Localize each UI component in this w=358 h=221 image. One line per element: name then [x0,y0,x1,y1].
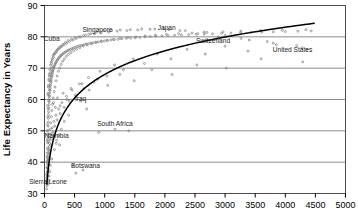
data-point [48,75,50,77]
data-point [106,75,108,77]
data-point [79,47,81,49]
data-point [310,30,312,32]
data-point [88,33,90,35]
data-point [151,69,153,71]
data-point [55,114,57,116]
data-point [73,50,75,52]
data-point [186,48,188,50]
x-tick-label: 500 [67,200,82,210]
data-point [53,102,55,104]
data-point [68,53,70,55]
data-point [47,105,49,107]
y-axis: 30405060708090 [27,1,44,199]
data-point [59,144,61,146]
data-point [230,32,232,34]
data-point [62,60,64,62]
data-point [141,28,143,30]
y-axis-title: Life Expectancy in Years [1,43,12,157]
data-point [60,63,62,65]
data-point [260,58,262,60]
data-point [171,73,173,75]
data-point [56,119,58,121]
data-point [99,70,101,72]
data-point [59,105,61,107]
data-point [49,128,51,130]
data-point [75,172,77,174]
data-point [103,40,105,42]
data-point [126,30,128,32]
data-point [154,28,156,30]
data-point [297,30,299,32]
annotation-label: United States [273,46,313,53]
data-point [197,33,199,35]
data-point [178,33,180,35]
data-point [51,59,53,61]
data-point [52,56,54,58]
data-point [60,128,62,130]
data-point [54,86,56,88]
data-point [47,92,49,94]
data-point [70,88,72,90]
data-point [114,64,116,66]
data-point [54,125,56,127]
data-point [46,124,48,126]
data-point [47,116,49,118]
data-point [196,64,198,66]
data-point [48,111,50,113]
annotation-label: Namibia [44,132,69,139]
data-point [224,45,226,47]
data-point [222,31,224,33]
y-tick-label: 90 [27,1,37,11]
data-point [65,95,67,97]
data-point [137,29,139,31]
x-tick-label: 4500 [305,200,325,210]
data-point [48,100,50,102]
data-point [58,108,60,110]
x-tick-label: 0 [42,200,47,210]
data-point [65,55,67,57]
data-point [70,52,72,54]
data-point [50,62,52,64]
data-point [51,158,53,160]
x-tick-label: 3000 [215,200,235,210]
data-point [59,113,61,115]
data-point [88,89,90,91]
data-point [110,39,112,41]
data-point [74,37,76,39]
data-point [48,142,50,144]
x-tick-label: 1000 [95,200,115,210]
data-point [143,62,145,64]
data-point [212,33,214,35]
data-point [63,58,65,60]
data-point [98,131,100,133]
data-point [204,53,206,55]
data-point [55,80,57,82]
data-point [53,91,55,93]
data-point [57,70,59,72]
annotation-label: Cuba [44,35,60,42]
y-tick-label: 70 [27,63,37,73]
data-point [48,114,50,116]
data-point [240,30,242,32]
data-point [130,37,132,39]
data-point [100,41,102,43]
data-point [132,58,134,60]
data-point [119,37,121,39]
data-point [161,35,163,37]
data-point [97,41,99,43]
data-point [61,102,63,104]
data-point [122,69,124,71]
data-point [129,29,131,31]
data-point [184,30,186,32]
data-point [165,33,167,35]
y-tick-label: 30 [27,189,37,199]
data-point [191,32,193,34]
data-point [53,149,55,151]
annotation-label: Switzerland [196,37,230,44]
data-point [174,34,176,36]
x-tick-label: 1500 [125,200,145,210]
data-point [133,80,135,82]
y-tick-label: 80 [27,32,37,42]
data-point [87,77,89,79]
y-tick-label: 50 [27,126,37,136]
